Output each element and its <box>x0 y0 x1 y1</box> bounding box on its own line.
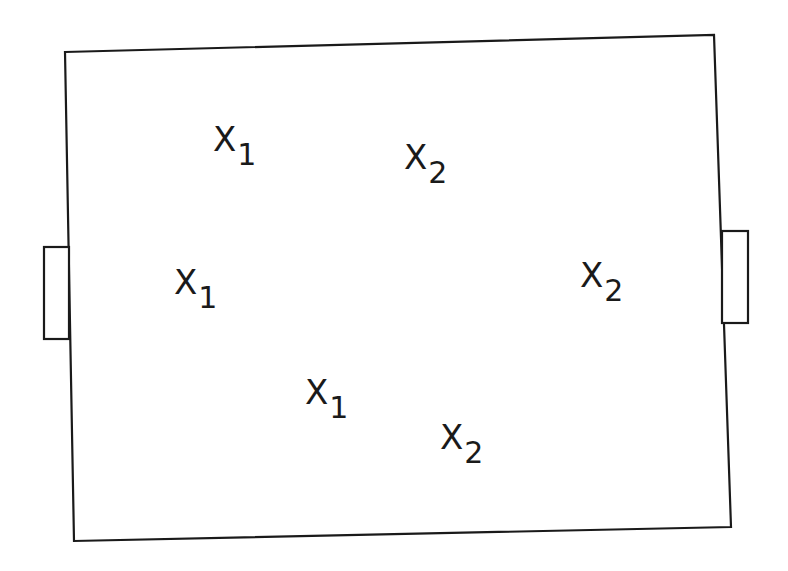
field-diagram: X1 X1 X1 X2 X2 X2 <box>0 0 788 571</box>
player-subscript: 1 <box>237 137 255 172</box>
player-label: X <box>174 262 196 302</box>
player-team2-b: X2 <box>580 258 622 292</box>
field-boundary <box>65 35 731 541</box>
right-goal <box>722 231 748 323</box>
player-label: X <box>580 255 602 295</box>
player-team2-c: X2 <box>440 420 482 454</box>
player-team2-a: X2 <box>404 140 446 174</box>
player-label: X <box>213 119 235 159</box>
player-subscript: 2 <box>464 435 482 470</box>
player-team1-c: X1 <box>305 375 347 409</box>
player-label: X <box>440 417 462 457</box>
player-label: X <box>404 137 426 177</box>
player-label: X <box>305 372 327 412</box>
player-subscript: 2 <box>428 155 446 190</box>
player-subscript: 1 <box>198 280 216 315</box>
player-subscript: 2 <box>604 273 622 308</box>
player-subscript: 1 <box>329 390 347 425</box>
player-team1-a: X1 <box>213 122 255 156</box>
left-goal <box>44 247 69 339</box>
field-drawing <box>0 0 788 571</box>
player-team1-b: X1 <box>174 265 216 299</box>
